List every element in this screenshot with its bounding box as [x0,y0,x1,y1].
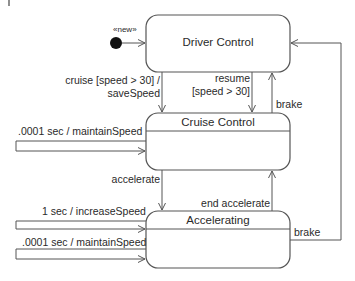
transition-cruise-label-line1: cruise [speed > 30] / [40,74,160,86]
transition-end-accelerate-label: end accelerate [190,197,270,209]
transition-maintain-cruise-arrow [16,141,146,151]
transition-brake-accel-label: brake [294,226,320,238]
transition-maintain-accel-arrow [16,249,146,259]
state-title-cruise-control: Cruise Control [146,116,290,128]
transition-resume-label-line2: [speed > 30] [180,85,250,97]
transition-maintain-cruise-label: .0001 sec / maintainSpeed [18,125,142,137]
initial-node [110,37,122,49]
transition-cruise-label-line2: saveSpeed [40,87,160,99]
initial-stereotype-label: «new» [113,24,137,36]
transition-brake-cruise-label: brake [276,98,302,110]
transition-maintain-accel-label: .0001 sec / maintainSpeed [22,236,146,248]
transition-accelerate-label: accelerate [80,173,160,185]
transition-brake-accel-arrow [290,43,341,240]
transition-increase-speed-arrow [16,221,146,229]
state-title-driver-control: Driver Control [146,36,290,48]
state-title-accelerating: Accelerating [146,214,290,226]
transition-resume-label-line1: resume [180,72,250,84]
transition-increase-speed-label: 1 sec / increaseSpeed [42,205,146,217]
